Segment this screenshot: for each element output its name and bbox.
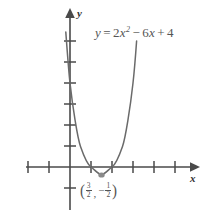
vertex-y-denominator: 2: [106, 191, 112, 199]
vertex-x-denominator: 2: [86, 191, 92, 199]
x-axis-label: x: [190, 172, 196, 184]
equation-constant: 4: [167, 25, 174, 40]
equation-constant-sign: +: [155, 25, 167, 40]
vertex-minus-sign: −: [98, 184, 105, 196]
equation-linear-sign: −: [130, 25, 142, 40]
equation-quadratic-coefficient: 2: [113, 25, 120, 40]
y-axis-label: y: [77, 7, 82, 19]
vertex-point: [98, 172, 104, 177]
vertex-y-numerator: 1: [106, 182, 112, 190]
parabola-curve: [66, 32, 137, 174]
equation-linear-coefficient: 6: [142, 25, 149, 40]
equation-equals: =: [101, 25, 113, 40]
vertex-annotation: ( 3 2 , − 1 2 ): [80, 182, 117, 199]
equation-annotation: y=2x2−6x+4: [95, 25, 174, 41]
y-axis-arrowhead: [65, 8, 75, 18]
parabola-figure: y x y=2x2−6x+4 ( 3 2 , − 1 2 ): [0, 0, 207, 219]
vertex-x-fraction: 3 2: [86, 182, 92, 199]
vertex-open-paren: (: [80, 182, 85, 199]
vertex-x-numerator: 3: [86, 182, 92, 190]
vertex-y-fraction: 1 2: [105, 182, 111, 199]
vertex-close-paren: ): [112, 182, 117, 199]
x-axis-arrowhead: [190, 162, 200, 172]
